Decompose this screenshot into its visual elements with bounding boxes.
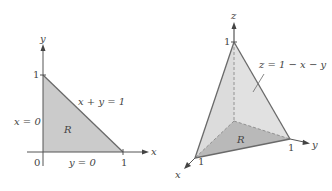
y-axis-label: y — [39, 33, 46, 44]
diagram-canvas: y x 1 1 0 x + y = 1 x = 0 y = 0 R — [0, 0, 332, 191]
x-axis-3d — [189, 158, 195, 164]
x-axis-label: x — [151, 146, 157, 157]
origin-label: 0 — [34, 157, 40, 168]
x-tick-3d-label: 1 — [198, 156, 204, 167]
x-tick-label: 1 — [121, 157, 127, 168]
region-3d-label: R — [236, 134, 245, 145]
left-edge-label: x = 0 — [14, 116, 41, 127]
y-axis-3d-arrow-icon — [303, 140, 311, 145]
y-tick-3d-label: 1 — [288, 142, 294, 153]
z-axis-arrow-icon — [232, 22, 237, 29]
left-figure: y x 1 1 0 x + y = 1 x = 0 y = 0 R — [14, 33, 157, 168]
z-axis-label: z — [230, 10, 237, 21]
bottom-edge-label: y = 0 — [68, 157, 96, 168]
region-label: R — [63, 124, 72, 135]
surface-label: z = 1 − x − y — [258, 59, 326, 70]
x-axis-arrow-icon — [142, 150, 149, 155]
y-axis-3d-label: y — [311, 139, 318, 150]
y-tick-label: 1 — [33, 69, 39, 80]
y-axis-arrow-icon — [41, 44, 46, 51]
x-axis-3d-label: x — [175, 169, 181, 180]
hypotenuse-label: x + y = 1 — [78, 96, 125, 107]
z-tick-label: 1 — [224, 36, 230, 47]
right-figure: z y x 1 1 1 z = 1 − x − y R — [175, 10, 326, 180]
